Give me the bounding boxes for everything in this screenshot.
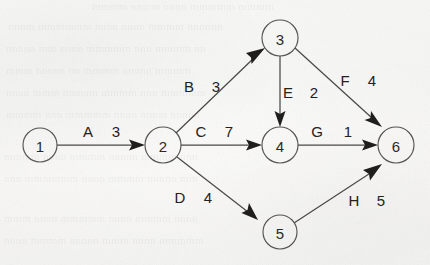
edge-E-name: E bbox=[283, 84, 293, 101]
edge-H-arrowhead bbox=[363, 164, 382, 181]
edge-B[interactable]: B 3 bbox=[176, 48, 265, 133]
edge-A[interactable]: A 3 bbox=[57, 123, 145, 151]
edge-B-name: B bbox=[184, 78, 194, 95]
node-1[interactable]: 1 bbox=[23, 128, 57, 162]
edge-D[interactable]: D 4 bbox=[175, 157, 258, 220]
scanned-page-canvas: mmmm nnnnn nnnn mmmmm mmmm mmm mmmmmm nn… bbox=[0, 0, 430, 265]
edge-D-name: D bbox=[175, 189, 186, 206]
edge-D-arrowhead bbox=[242, 203, 259, 220]
edge-H-name: H bbox=[349, 192, 360, 209]
node-5[interactable]: 5 bbox=[263, 215, 297, 249]
node-4-label: 4 bbox=[276, 138, 284, 155]
edge-F-weight: 4 bbox=[368, 72, 376, 89]
edge-D-line bbox=[177, 157, 248, 212]
edge-H-line bbox=[294, 172, 372, 223]
edge-A-weight: 3 bbox=[112, 123, 120, 140]
edge-C-weight: 7 bbox=[225, 123, 233, 140]
edge-G-name: G bbox=[311, 123, 323, 140]
node-4[interactable]: 4 bbox=[262, 127, 298, 163]
node-3-label: 3 bbox=[276, 31, 284, 48]
edge-B-arrowhead bbox=[246, 48, 265, 64]
edge-E[interactable]: E 2 bbox=[275, 56, 319, 127]
edge-A-name: A bbox=[83, 123, 93, 140]
edge-B-line bbox=[176, 56, 256, 133]
edge-F-name: F bbox=[340, 72, 349, 89]
node-6-label: 6 bbox=[392, 138, 400, 155]
edge-F-line bbox=[295, 48, 372, 118]
edge-D-weight: 4 bbox=[204, 189, 212, 206]
node-1-label: 1 bbox=[36, 138, 44, 155]
node-2-label: 2 bbox=[159, 138, 167, 155]
edge-G-weight: 1 bbox=[344, 123, 352, 140]
node-5-label: 5 bbox=[276, 225, 284, 242]
edge-B-weight: 3 bbox=[212, 78, 220, 95]
edge-E-weight: 2 bbox=[310, 84, 318, 101]
edge-H-weight: 5 bbox=[377, 192, 385, 209]
node-3[interactable]: 3 bbox=[262, 20, 298, 56]
edge-F[interactable]: F 4 bbox=[295, 48, 382, 127]
edge-H[interactable]: H 5 bbox=[294, 164, 385, 223]
edge-C[interactable]: C 7 bbox=[181, 123, 262, 151]
edge-C-name: C bbox=[196, 123, 207, 140]
edge-G[interactable]: G 1 bbox=[298, 123, 378, 151]
node-6[interactable]: 6 bbox=[378, 127, 414, 163]
node-2[interactable]: 2 bbox=[145, 127, 181, 163]
graph-diagram: A 3 B 3 C 7 D 4 E 2 bbox=[0, 0, 430, 265]
